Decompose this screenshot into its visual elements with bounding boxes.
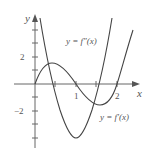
y-axis-label: y [24,12,30,24]
chart: y x 1 2 2 −2 y = f″(x) y = f′(x) [0,0,147,157]
x-tick-label-2: 2 [115,91,120,101]
y-tick-label-2: 2 [20,52,25,62]
y-tick-label-neg2: −2 [14,106,24,116]
x-tick-label-1: 1 [74,91,79,101]
f-prime-label: y = f′(x) [99,112,129,122]
x-axis-label: x [136,87,142,99]
y-axis-arrow-icon [32,14,38,22]
f-double-prime-label: y = f″(x) [65,36,97,46]
